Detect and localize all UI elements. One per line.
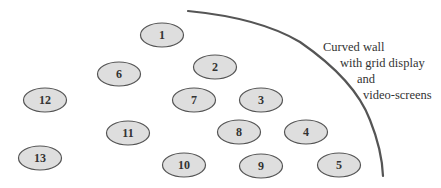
seat-6: 6 xyxy=(98,62,141,86)
wall-label-line-4: video-screens xyxy=(363,88,432,103)
seat-9: 9 xyxy=(240,154,283,178)
seat-number: 9 xyxy=(258,159,264,173)
seat-number: 2 xyxy=(212,60,218,74)
seat-13: 13 xyxy=(19,146,62,170)
seat-number: 5 xyxy=(336,158,342,172)
seat-4: 4 xyxy=(285,120,328,144)
seat-5: 5 xyxy=(318,153,361,177)
seat-number: 13 xyxy=(34,151,46,165)
seat-number: 8 xyxy=(236,125,242,139)
curved-wall xyxy=(188,11,383,176)
seat-8: 8 xyxy=(218,120,261,144)
seat-11: 11 xyxy=(107,121,150,145)
seat-3: 3 xyxy=(240,88,283,112)
seat-number: 6 xyxy=(116,67,122,81)
seat-number: 4 xyxy=(303,125,309,139)
seat-2: 2 xyxy=(194,55,237,79)
seat-number: 3 xyxy=(258,93,264,107)
seat-12: 12 xyxy=(24,88,67,112)
seat-number: 7 xyxy=(191,93,197,107)
seat-1: 1 xyxy=(141,23,184,47)
seat-7: 7 xyxy=(173,88,216,112)
seat-number: 12 xyxy=(39,93,51,107)
seat-number: 10 xyxy=(178,158,190,172)
wall-label-line-1: Curved wall xyxy=(323,40,384,55)
wall-label-line-2: with grid display xyxy=(340,56,425,71)
seats-group: 12345678910111213 xyxy=(19,23,361,178)
wall-label-line-3: and xyxy=(357,72,375,87)
seat-number: 1 xyxy=(159,28,165,42)
seat-10: 10 xyxy=(163,153,206,177)
seat-number: 11 xyxy=(122,126,133,140)
